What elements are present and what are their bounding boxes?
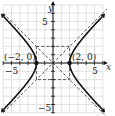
- vertex-right-label: (2, 0): [72, 52, 96, 62]
- x-tick-label-neg5: −5: [5, 66, 19, 76]
- hyperbola-graph: y x 5 −5 −5 5 (−2, 0) (2, 0): [0, 0, 115, 116]
- x-axis-label: x: [106, 62, 111, 72]
- y-tick-label-5: 5: [42, 17, 48, 27]
- y-tick-label-neg5: −5: [38, 103, 52, 113]
- x-tick-label-5: 5: [92, 66, 98, 76]
- y-axis-label: y: [47, 3, 54, 13]
- vertex-left-label: (−2, 0): [4, 52, 36, 62]
